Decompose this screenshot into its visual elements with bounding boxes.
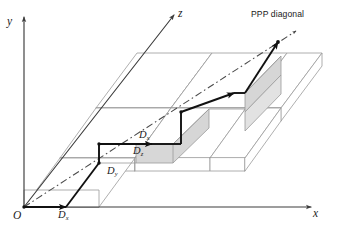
origin-label: O: [13, 210, 21, 222]
dimension-label-d-z-face: Dz: [133, 146, 143, 157]
dimension-label-d-x-face: Dx: [139, 130, 150, 141]
dimension-label-d-y-edge: Dy: [107, 166, 118, 177]
ppp-diagonal-diagram: [0, 0, 337, 228]
block-grid-front-row: [24, 158, 135, 207]
axis-label-x: x: [313, 208, 318, 220]
axis-label-y: y: [7, 16, 12, 28]
diagram-canvas: y z x O PPP diagonal Dx Dy Dx Dz: [0, 0, 337, 228]
dimension-label-d-x-axis: Dx: [58, 210, 69, 221]
axis-label-z: z: [178, 8, 182, 20]
ppp-diagonal-label: PPP diagonal: [251, 9, 304, 19]
